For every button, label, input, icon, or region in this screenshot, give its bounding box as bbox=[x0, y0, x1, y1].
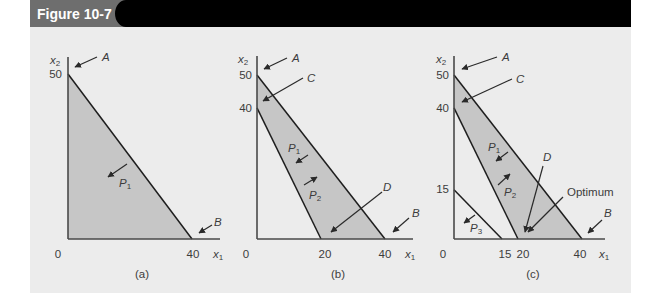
label-b: B bbox=[214, 216, 222, 228]
y-tick-50: 50 bbox=[49, 68, 62, 80]
y-tick-15: 15 bbox=[436, 183, 449, 195]
x-tick-15: 15 bbox=[499, 248, 512, 260]
panel-caption: (b) bbox=[331, 268, 345, 280]
figure-canvas: Figure 10-7 x2 50 0 40 x1 (a) A P1 B x2 … bbox=[0, 0, 648, 301]
figure-header: Figure 10-7 bbox=[30, 0, 631, 27]
x-tick-40: 40 bbox=[379, 248, 392, 260]
y-tick-50: 50 bbox=[436, 69, 449, 81]
panel-caption: (a) bbox=[135, 268, 149, 280]
label-b: B bbox=[412, 207, 420, 219]
origin-label: 0 bbox=[440, 248, 446, 260]
x-tick-40: 40 bbox=[187, 248, 200, 260]
label-optimum: Optimum bbox=[567, 186, 614, 198]
origin-label: 0 bbox=[243, 248, 249, 260]
label-c: C bbox=[307, 72, 316, 84]
y-tick-40: 40 bbox=[436, 102, 449, 114]
x-tick-40: 40 bbox=[574, 248, 587, 260]
label-a: A bbox=[291, 52, 300, 64]
origin-label: 0 bbox=[55, 248, 61, 260]
header-bar bbox=[30, 0, 631, 27]
label-a: A bbox=[101, 51, 110, 63]
y-tick-50: 50 bbox=[239, 69, 252, 81]
y-tick-40: 40 bbox=[239, 102, 252, 114]
label-d: D bbox=[383, 181, 391, 193]
panel-caption: (c) bbox=[526, 268, 540, 280]
x-tick-20: 20 bbox=[517, 248, 530, 260]
figure-label: Figure 10-7 bbox=[37, 6, 112, 22]
label-d: D bbox=[543, 151, 551, 163]
label-b: B bbox=[604, 207, 612, 219]
label-a: A bbox=[501, 51, 510, 63]
x-tick-20: 20 bbox=[319, 248, 332, 260]
label-c: C bbox=[516, 73, 525, 85]
